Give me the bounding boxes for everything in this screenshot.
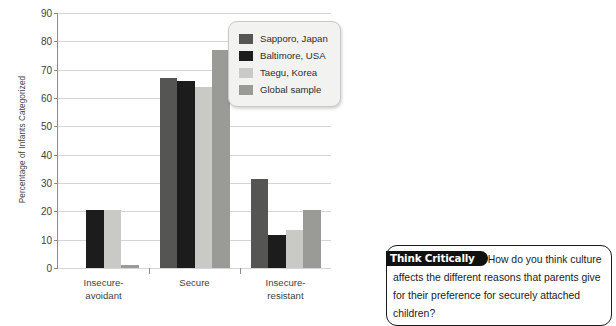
legend-item-taegu-korea: Taegu, Korea bbox=[239, 64, 328, 81]
think-critically-callout: Think CriticallyHow do you think culture… bbox=[386, 245, 612, 326]
x-tick-mark bbox=[149, 268, 150, 274]
bar bbox=[212, 50, 230, 268]
y-tick-label: 90 bbox=[41, 8, 52, 19]
bar bbox=[86, 210, 104, 268]
bar bbox=[121, 265, 139, 268]
y-tick-label: 80 bbox=[41, 36, 52, 47]
x-axis-category-label: Insecure-resistant bbox=[241, 277, 331, 302]
legend-swatch-icon bbox=[239, 85, 253, 95]
y-tick-label: 50 bbox=[41, 121, 52, 132]
bar bbox=[160, 78, 178, 268]
legend-label: Baltimore, USA bbox=[260, 50, 326, 61]
legend-item-baltimore-usa: Baltimore, USA bbox=[239, 47, 328, 64]
think-critically-badge: Think Critically bbox=[386, 251, 488, 266]
x-axis-category-label: Insecure-avoidant bbox=[59, 277, 149, 302]
bar bbox=[104, 210, 122, 268]
y-tick-label: 0 bbox=[46, 263, 52, 274]
y-tick-label: 30 bbox=[41, 178, 52, 189]
chart-legend: Sapporo, Japan Baltimore, USA Taegu, Kor… bbox=[228, 21, 341, 107]
bar-chart: Percentage of Infants Categorized 010203… bbox=[0, 0, 400, 314]
legend-label: Sapporo, Japan bbox=[260, 33, 328, 44]
y-tick-label: 70 bbox=[41, 64, 52, 75]
y-tick-mark bbox=[54, 268, 58, 269]
y-tick-label: 60 bbox=[41, 93, 52, 104]
legend-label: Global sample bbox=[260, 84, 321, 95]
y-tick-label: 10 bbox=[41, 234, 52, 245]
y-axis-title: Percentage of Infants Categorized bbox=[18, 35, 27, 245]
bar bbox=[195, 87, 213, 268]
x-axis-category-label: Secure bbox=[150, 277, 240, 290]
x-tick-mark bbox=[240, 268, 241, 274]
bar bbox=[251, 179, 269, 268]
bar bbox=[303, 210, 321, 268]
bar bbox=[177, 81, 195, 268]
bar bbox=[286, 230, 304, 268]
bar bbox=[268, 235, 286, 268]
y-tick-label: 20 bbox=[41, 206, 52, 217]
legend-item-global-sample: Global sample bbox=[239, 81, 328, 98]
gridline: 0 bbox=[58, 268, 331, 269]
legend-swatch-icon bbox=[239, 51, 253, 61]
y-tick-label: 40 bbox=[41, 149, 52, 160]
legend-label: Taegu, Korea bbox=[260, 67, 317, 78]
legend-swatch-icon bbox=[239, 34, 253, 44]
legend-swatch-icon bbox=[239, 68, 253, 78]
legend-item-sapporo-japan: Sapporo, Japan bbox=[239, 30, 328, 47]
